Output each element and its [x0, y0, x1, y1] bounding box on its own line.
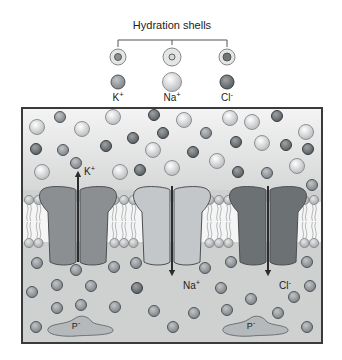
cl-ion-icon: [220, 75, 234, 89]
cl-ion-icon: [101, 141, 112, 152]
na-ion-icon: [177, 113, 192, 128]
cl-ion-icon: [31, 144, 42, 155]
na-ion-icon: [106, 110, 121, 125]
k-ion-icon: [52, 280, 63, 291]
k-ion-icon: [216, 283, 227, 294]
na-ion-icon: [299, 125, 314, 140]
k-ion-icon: [307, 180, 318, 191]
legend-label-na: Na+: [163, 90, 181, 103]
k-ion-icon: [86, 281, 97, 292]
na-ion-icon: [165, 161, 180, 176]
k-ion-icon: [302, 322, 313, 333]
legend-na: Na+: [163, 48, 182, 103]
k-ion-icon: [52, 303, 63, 314]
k-ion-icon: [71, 265, 82, 276]
k-ion-icon: [31, 322, 42, 333]
k-ion-icon: [32, 258, 43, 269]
cl-ion-icon: [188, 147, 199, 158]
na-ion-icon: [163, 73, 182, 92]
na-ion-icon: [30, 120, 45, 135]
ion-legend: K+Na+Cl-: [110, 48, 235, 103]
na-ion-icon: [35, 165, 50, 180]
k-ion-icon: [289, 292, 300, 303]
k-ion-icon: [189, 308, 200, 319]
na-ion-icon: [75, 122, 90, 137]
cell-frame: P-P- K+Na+Cl-: [22, 108, 322, 343]
cl-ion-icon: [135, 165, 146, 176]
k-ion-icon: [200, 263, 211, 274]
k-ion-icon: [149, 306, 160, 317]
na-ion-icon: [113, 165, 128, 180]
cl-ion-icon: [128, 133, 139, 144]
legend-k: K+: [110, 49, 126, 103]
k-ion-icon: [58, 145, 69, 156]
k-ion-icon: [302, 257, 313, 268]
cl-ion-icon: [281, 140, 292, 151]
cl-ion-icon: [149, 110, 160, 121]
na-ion-icon: [245, 115, 260, 130]
cl-ion-icon: [303, 144, 314, 155]
legend-label-cl: Cl-: [221, 90, 233, 103]
na-ion-icon: [146, 143, 161, 158]
ion-channel-diagram: Hydration shells K+Na+Cl- P-P- K+Na+Cl-: [0, 0, 342, 360]
k-ion-icon: [27, 287, 38, 298]
k-ion-icon: [131, 258, 142, 269]
na-ion-icon: [210, 154, 225, 169]
cl-ion-icon: [132, 283, 143, 294]
k-ion-icon: [305, 281, 316, 292]
cl-ion-icon: [158, 128, 169, 139]
legend-cl: Cl-: [219, 49, 235, 103]
k-ion-icon: [201, 128, 212, 139]
k-ion-icon: [273, 308, 284, 319]
k-ion-icon: [111, 75, 125, 89]
hydration-shells-title: Hydration shells: [133, 19, 212, 31]
legend-bracket: [118, 40, 227, 47]
k-ion-icon: [246, 294, 257, 305]
k-ion-icon: [71, 158, 82, 169]
na-ion-icon: [290, 159, 305, 174]
cl-ion-icon: [233, 167, 244, 178]
k-ion-icon: [55, 112, 66, 123]
k-ion-icon: [168, 322, 179, 333]
cl-ion-icon: [272, 111, 283, 122]
na-ion-icon: [255, 136, 270, 151]
k-ion-icon: [262, 168, 273, 179]
k-ion-icon: [76, 300, 87, 311]
cl-ion-icon: [231, 137, 242, 148]
k-ion-icon: [109, 262, 120, 273]
k-ion-icon: [226, 257, 237, 268]
na-ion-icon: [223, 111, 238, 126]
k-ion-icon: [110, 302, 121, 313]
legend-label-k: K+: [112, 90, 124, 103]
k-ion-icon: [222, 305, 233, 316]
